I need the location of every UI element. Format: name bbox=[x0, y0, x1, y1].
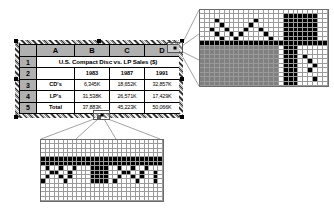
cell-b2-year[interactable]: 1983 bbox=[75, 68, 110, 79]
zoom-source-box-bottom[interactable] bbox=[93, 110, 110, 120]
table-row: 1 U.S. Compact Disc vs. LP Sales ($) bbox=[20, 57, 180, 68]
connector-line bbox=[41, 119, 94, 139]
cell-c3-value[interactable]: 18,652K bbox=[110, 79, 145, 90]
row-header-3[interactable]: 3 bbox=[20, 79, 37, 90]
cell-b4-value[interactable]: 31,538K bbox=[75, 91, 110, 102]
cell-b3-value[interactable]: 6,345K bbox=[75, 79, 110, 90]
connector-line bbox=[181, 51, 199, 60]
cell-a5-label[interactable]: Total bbox=[37, 102, 75, 113]
connector-line bbox=[182, 10, 199, 44]
connector-line bbox=[181, 54, 199, 86]
zoom-source-box-top-right[interactable] bbox=[167, 42, 183, 53]
column-header-b[interactable]: B bbox=[75, 45, 110, 57]
bottom-magnified-callout bbox=[40, 139, 164, 202]
column-header-c[interactable]: C bbox=[110, 45, 145, 57]
table-row: 2 1983 1987 1991 bbox=[20, 68, 180, 79]
cell-a3-label[interactable]: CD's bbox=[37, 79, 75, 90]
row-header-2[interactable]: 2 bbox=[20, 68, 37, 79]
cell-c4-value[interactable]: 26,571K bbox=[110, 91, 145, 102]
cell-d5-value[interactable]: 50,066K bbox=[145, 102, 180, 113]
pixel-cell bbox=[158, 197, 163, 201]
pixel-cell bbox=[323, 82, 328, 86]
cell-d3-value[interactable]: 32,857K bbox=[145, 79, 180, 90]
cell-a2[interactable] bbox=[37, 68, 75, 79]
cell-a4-label[interactable]: LP's bbox=[37, 91, 75, 102]
sales-table[interactable]: A B C D 1 U.S. Compact Disc vs. LP Sales… bbox=[19, 44, 179, 114]
connector-line bbox=[108, 119, 160, 139]
cell-d2-year[interactable]: 1991 bbox=[145, 68, 180, 79]
column-header-row: A B C D bbox=[20, 45, 180, 57]
column-header-a[interactable]: A bbox=[37, 45, 75, 57]
resize-handle-middle-left[interactable] bbox=[14, 77, 18, 81]
spreadsheet-object[interactable]: A B C D 1 U.S. Compact Disc vs. LP Sales… bbox=[15, 40, 183, 118]
spreadsheet-grid[interactable]: A B C D 1 U.S. Compact Disc vs. LP Sales… bbox=[19, 44, 179, 114]
resize-handle-bottom-left[interactable] bbox=[14, 115, 18, 119]
row-header-5[interactable]: 5 bbox=[20, 102, 37, 113]
pixel-grid bbox=[200, 10, 328, 86]
row-header-1[interactable]: 1 bbox=[20, 57, 37, 68]
resize-handle-bottom-right[interactable] bbox=[180, 115, 184, 119]
table-row: 4 LP's 31,538K 26,571K 17,429K bbox=[20, 91, 180, 102]
resize-handle-top-left[interactable] bbox=[14, 39, 18, 43]
top-right-magnified-callout bbox=[199, 9, 329, 87]
row-header-4[interactable]: 4 bbox=[20, 91, 37, 102]
handle-dot-icon bbox=[100, 114, 103, 117]
select-all-corner[interactable] bbox=[20, 45, 37, 57]
connector-line bbox=[104, 119, 116, 139]
connector-line bbox=[182, 34, 199, 46]
pixel-grid bbox=[41, 140, 163, 201]
screenshot-canvas: A B C D 1 U.S. Compact Disc vs. LP Sales… bbox=[0, 0, 334, 211]
cell-c2-year[interactable]: 1987 bbox=[110, 68, 145, 79]
connector-line bbox=[76, 119, 98, 139]
cell-c5-value[interactable]: 45,223K bbox=[110, 102, 145, 113]
table-title-cell[interactable]: U.S. Compact Disc vs. LP Sales ($) bbox=[37, 57, 180, 68]
cell-d4-value[interactable]: 17,429K bbox=[145, 91, 180, 102]
resize-handle-top-center[interactable] bbox=[97, 39, 101, 43]
handle-dot-icon bbox=[174, 46, 177, 49]
table-row: 3 CD's 6,345K 18,652K 32,857K bbox=[20, 79, 180, 90]
resize-handle-middle-right[interactable] bbox=[180, 77, 184, 81]
